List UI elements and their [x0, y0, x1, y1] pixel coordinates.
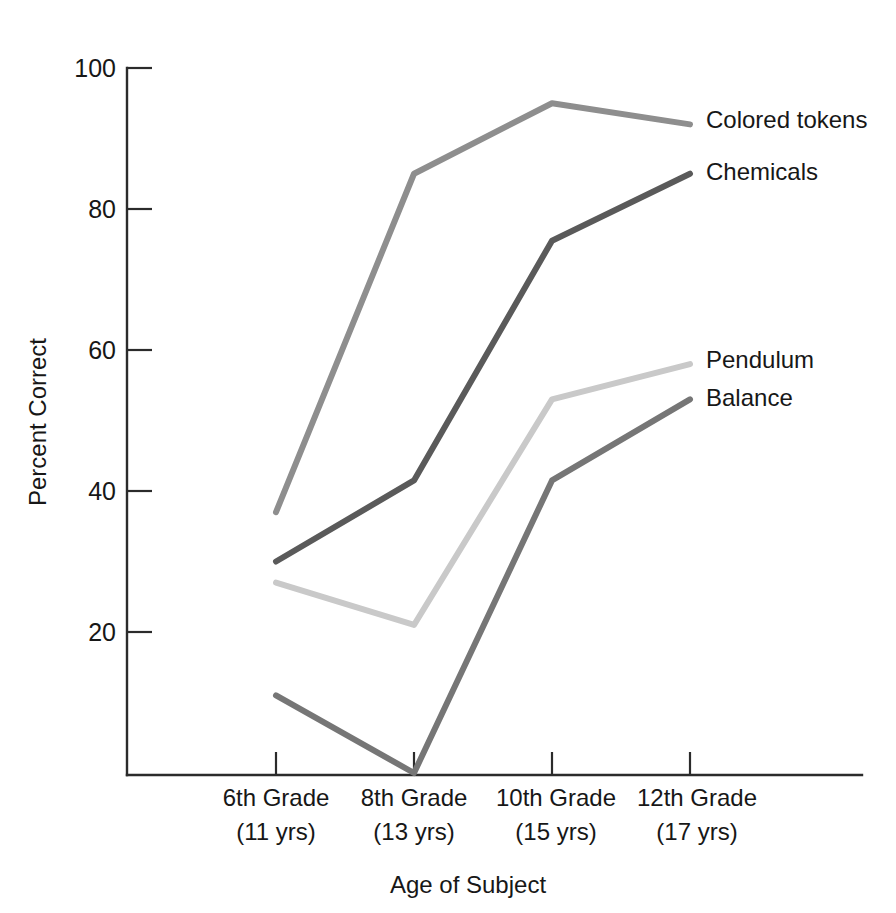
x-label-age-2: (15 yrs) — [515, 818, 596, 845]
x-label-grade-2: 10th Grade — [496, 784, 616, 811]
y-tick-label-80: 80 — [88, 195, 116, 223]
series-line-colored-tokens — [276, 103, 690, 512]
x-label-age-3: (17 yrs) — [656, 818, 737, 845]
series-layer — [276, 103, 690, 773]
series-label-pendulum: Pendulum — [706, 346, 814, 373]
line-chart: 100 80 60 40 20 Percent Correct 6th Grad… — [0, 0, 896, 913]
x-label-grade-1: 8th Grade — [361, 784, 468, 811]
x-label-grade-0: 6th Grade — [223, 784, 330, 811]
series-label-balance: Balance — [706, 384, 793, 411]
series-label-chemicals: Chemicals — [706, 158, 818, 185]
series-line-pendulum — [276, 364, 690, 625]
x-label-age-1: (13 yrs) — [373, 818, 454, 845]
y-tick-label-40: 40 — [88, 477, 116, 505]
y-tick-label-100: 100 — [74, 54, 116, 82]
series-line-balance — [276, 399, 690, 773]
y-axis-tick-labels: 100 80 60 40 20 — [74, 54, 116, 646]
chart-canvas: 100 80 60 40 20 Percent Correct 6th Grad… — [0, 0, 896, 913]
y-axis-ticks — [127, 68, 152, 632]
series-label-colored-tokens: Colored tokens — [706, 106, 867, 133]
x-label-age-0: (11 yrs) — [236, 818, 316, 845]
y-tick-label-20: 20 — [88, 618, 116, 646]
x-axis-category-labels: 6th Grade (11 yrs) 8th Grade (13 yrs) 10… — [223, 784, 757, 845]
x-axis-title: Age of Subject — [390, 871, 546, 898]
x-label-grade-3: 12th Grade — [637, 784, 757, 811]
x-axis-ticks — [276, 752, 690, 775]
series-label-layer: Colored tokensChemicalsPendulumBalance — [706, 106, 867, 411]
y-tick-label-60: 60 — [88, 336, 116, 364]
y-axis-title: Percent Correct — [24, 338, 51, 506]
